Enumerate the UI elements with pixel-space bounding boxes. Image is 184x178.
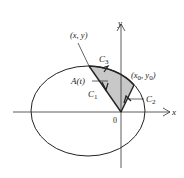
label-c1: C1 — [88, 89, 98, 101]
leader-xy — [78, 43, 89, 66]
label-c3: C3 — [99, 54, 109, 66]
label-point-x0y0: (x0, y0) — [131, 70, 156, 82]
label-x-axis: x — [171, 107, 176, 117]
label-c2: C2 — [146, 94, 156, 106]
label-y-axis: y — [117, 18, 122, 28]
ellipse-area-diagram: x y 0 (x, y) (x0, y0) C3 A(t) C1 C2 — [0, 0, 184, 178]
label-a-t: A(t) — [70, 76, 85, 86]
label-origin: 0 — [113, 116, 117, 125]
shaded-region-a-t — [89, 66, 134, 112]
label-point-xy: (x, y) — [70, 30, 88, 40]
